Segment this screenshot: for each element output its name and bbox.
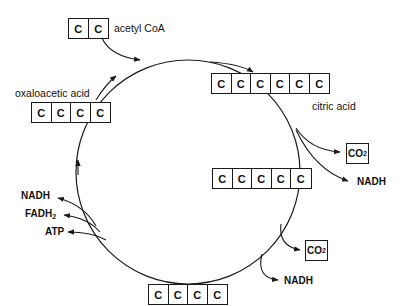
carbon-cell: C [169,285,189,304]
carbon-cell: C [271,74,291,93]
left-fadh2-label: FADH2 [25,208,56,220]
carbon-cell: C [149,285,169,304]
carbon-cell: C [91,103,111,122]
acetyl-coa-label: acetyl CoA [114,22,165,34]
left-nadh-arrow [58,198,96,226]
carbon-cell: C [208,285,228,304]
carbon-cell: C [89,19,109,38]
left-atp-label: ATP [45,226,64,237]
carbon-cell: C [233,169,253,188]
cycle-diagram-lines [0,0,404,306]
citric-acid-molecule: C C C C C C [211,73,330,94]
upper-nadh-label: NADH [357,176,386,187]
four-carbon-molecule: C C C C [148,284,228,305]
carbon-cell: C [252,169,272,188]
oxaloacetic-acid-label: oxaloacetic acid [15,87,90,99]
lower-co2-arrow [281,224,300,250]
co2-text: CO [307,245,322,256]
carbon-cell: C [32,103,52,122]
fadh-subscript: 2 [52,213,56,220]
carbon-cell: C [232,74,252,93]
carbon-cell: C [290,74,310,93]
lower-co2-box: CO2 [305,240,328,261]
five-carbon-molecule: C C C C C [212,168,312,189]
acetyl-coa-arrow [102,38,140,60]
acetyl-coa-molecule: C C [68,18,109,39]
left-nadh-label: NADH [21,190,50,201]
carbon-cell: C [251,74,271,93]
citric-co2-arrow [296,128,340,152]
lower-nadh-arrow [261,254,278,280]
co2-text: CO [348,148,363,159]
citric-acid-label: citric acid [312,100,356,112]
upper-co2-box: CO2 [346,143,369,164]
oxaloacetic-acid-molecule: C C C C [31,102,111,123]
lower-nadh-label: NADH [284,275,313,286]
co2-subscript: 2 [322,247,326,254]
carbon-cell: C [212,74,232,93]
carbon-cell: C [188,285,208,304]
left-atp-arrow [68,232,106,240]
carbon-cell: C [71,103,91,122]
fadh-text: FADH [25,208,52,219]
carbon-cell: C [272,169,292,188]
carbon-cell: C [52,103,72,122]
co2-subscript: 2 [363,150,367,157]
carbon-cell: C [69,19,89,38]
carbon-cell: C [213,169,233,188]
carbon-cell: C [310,74,330,93]
carbon-cell: C [291,169,311,188]
